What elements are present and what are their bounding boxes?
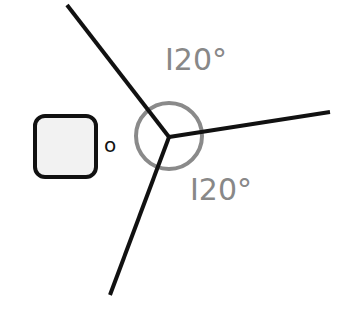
angle-label-top: I20° xyxy=(165,42,227,77)
angle-diagram: o I20° I20° xyxy=(0,0,343,318)
line-bottom xyxy=(110,137,169,295)
degree-o-label: o xyxy=(104,133,116,157)
angle-label-bottom: I20° xyxy=(190,172,252,207)
square-shape xyxy=(35,116,96,177)
